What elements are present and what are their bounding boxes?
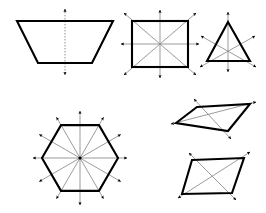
figure-square — [121, 10, 199, 78]
hexagon-center-point — [78, 156, 81, 159]
symmetry-diagram-canvas — [0, 0, 266, 213]
